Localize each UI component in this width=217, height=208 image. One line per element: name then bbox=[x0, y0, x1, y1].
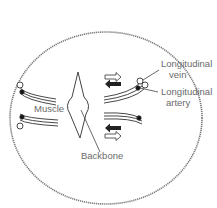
label-longitudinal-vein-2: vein bbox=[169, 69, 186, 80]
arrow-solid-left-lower bbox=[105, 124, 121, 133]
backbone bbox=[67, 72, 88, 138]
muscle-right-lower bbox=[104, 113, 142, 124]
arrow-outline-right-lower bbox=[105, 132, 121, 141]
vein-pointer bbox=[143, 70, 159, 80]
label-backbone: Backbone bbox=[81, 150, 123, 161]
backbone-pointer bbox=[81, 110, 100, 152]
muscle-right-upper bbox=[104, 78, 148, 103]
arrow-outline-right-upper bbox=[105, 73, 121, 82]
label-longitudinal-artery-2: artery bbox=[166, 97, 191, 108]
label-muscle: Muscle bbox=[34, 103, 64, 114]
muscle-left-lower bbox=[17, 114, 58, 129]
muscle-left-upper bbox=[17, 82, 56, 105]
label-longitudinal-artery-1: Longitudinal bbox=[161, 86, 212, 97]
label-longitudinal-vein-1: Longitudinal bbox=[161, 58, 212, 69]
fish-cross-section-diagram: Longitudinal vein Longitudinal artery Mu… bbox=[0, 0, 217, 208]
arrow-solid-left-upper bbox=[105, 80, 121, 89]
